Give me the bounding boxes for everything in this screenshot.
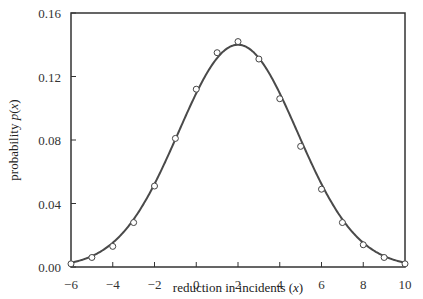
data-point [131,220,137,226]
y-tick-label: 0.08 [38,133,61,148]
data-point [193,86,199,92]
x-tick-label: −2 [148,277,162,292]
data-point [152,183,158,189]
y-tick-label: 0.16 [38,6,61,21]
data-point [68,261,74,267]
data-point [339,220,345,226]
x-axis-label: reduction in incidents (x) [173,280,303,295]
x-tick-label: −6 [64,277,78,292]
data-point [89,254,95,260]
data-point [402,261,408,267]
data-point [214,50,220,56]
data-point [235,39,241,45]
x-tick-label: −4 [106,277,120,292]
data-point [381,254,387,260]
probability-chart: 0.000.040.080.120.16 −6−4−20246810 reduc… [0,0,423,299]
y-tick-label: 0.12 [38,70,61,85]
y-axis-label: probability p(x) [6,99,21,180]
plot-frame [71,13,405,267]
x-tick-label: 10 [399,277,412,292]
data-points [68,39,408,267]
x-tick-label: 8 [360,277,367,292]
data-point [172,135,178,141]
data-point [360,242,366,248]
y-tick-label: 0.00 [38,260,61,275]
y-tick-label: 0.04 [38,197,61,212]
x-tick-label: 6 [318,277,325,292]
data-point [256,56,262,62]
data-point [110,243,116,249]
fitted-curve [71,45,405,263]
data-point [298,143,304,149]
data-point [319,186,325,192]
data-point [277,96,283,102]
